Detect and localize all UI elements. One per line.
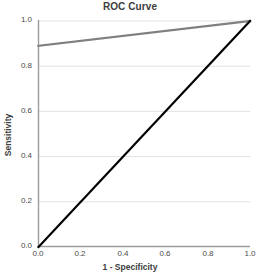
gridlines: [38, 21, 250, 202]
y-tick-label: 0.8: [12, 61, 32, 70]
plot-area: [0, 0, 260, 279]
y-tick-label: 0.4: [12, 151, 32, 160]
x-tick-label: 0.8: [197, 249, 219, 258]
y-tick-label: 1.0: [12, 15, 32, 24]
x-axis-title: 1 - Specificity: [0, 262, 260, 272]
y-tick-label: 0.6: [12, 106, 32, 115]
y-axis-title: Sensitivity: [3, 105, 13, 165]
roc-curve-chart: ROC Curve 0.0 0.2 0.4 0.6 0.8 1.0 0.0 0.…: [0, 0, 260, 279]
x-tick-label: 0.6: [154, 249, 176, 258]
x-tick-label: 0.4: [112, 249, 134, 258]
data-series: [39, 21, 251, 247]
x-tick-label: 0.0: [27, 249, 49, 258]
roc-curve-line: [39, 21, 251, 46]
y-tick-label: 0.2: [12, 196, 32, 205]
x-tick-label: 0.2: [69, 249, 91, 258]
x-tick-label: 1.0: [239, 249, 260, 258]
reference-line-line: [39, 21, 251, 247]
